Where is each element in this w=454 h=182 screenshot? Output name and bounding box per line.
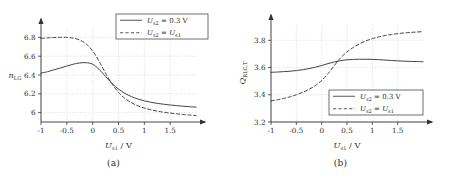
x-tick-label: 1.5 <box>392 126 404 135</box>
curve-solid <box>41 63 196 108</box>
legend: Us2 = 0.3 VUs2 = Us1 <box>329 90 423 115</box>
y-tick-label: 6.4 <box>24 71 36 80</box>
y-axis-title: QRLC,T <box>237 61 248 85</box>
plot-a: -1-0.500.511.566.26.46.66.8Us1 / VnLGUs2… <box>0 0 227 182</box>
y-tick-label: 3.6 <box>254 63 266 72</box>
x-tick-label: -0.5 <box>289 126 303 135</box>
y-tick-label: 6 <box>31 108 36 117</box>
panel-b: -1-0.500.511.53.23.43.63.8Us1 / VQRLC,TU… <box>227 0 454 182</box>
legend: Us2 = 0.3 VUs2 = Us1 <box>116 14 208 39</box>
grid <box>41 28 196 122</box>
x-tick-label: 1 <box>370 126 375 135</box>
x-tick-label: 1.5 <box>164 126 176 135</box>
caption-b: (b) <box>227 158 454 168</box>
x-tick-label: -0.5 <box>60 126 74 135</box>
x-tick-label: 1 <box>142 126 147 135</box>
y-tick-label: 3.2 <box>254 118 265 127</box>
panel-a: -1-0.500.511.566.26.46.66.8Us1 / VnLGUs2… <box>0 0 227 182</box>
figure-container: -1-0.500.511.566.26.46.66.8Us1 / VnLGUs2… <box>0 0 454 182</box>
x-tick-label: -1 <box>37 126 44 135</box>
y-tick-label: 6.2 <box>24 89 35 98</box>
y-axis-arrowhead <box>268 14 273 21</box>
plot-b: -1-0.500.511.53.23.43.63.8Us1 / VQRLC,TU… <box>227 0 454 182</box>
x-axis-arrowhead <box>427 119 434 124</box>
y-tick-label: 3.8 <box>254 36 266 45</box>
x-axis-title: Us1 / V <box>105 140 133 151</box>
x-tick-label: 0.5 <box>341 126 353 135</box>
caption-a: (a) <box>0 158 227 168</box>
y-tick-label: 3.4 <box>254 90 266 99</box>
y-tick-label: 6.6 <box>24 52 36 61</box>
y-tick-label: 6.8 <box>24 33 36 42</box>
x-axis-title: Us1 / V <box>334 140 362 151</box>
x-tick-label: 0.5 <box>113 126 125 135</box>
y-axis-title: nLG <box>9 70 22 81</box>
x-tick-label: -1 <box>267 126 274 135</box>
x-tick-label: 0 <box>90 126 95 135</box>
tick-labels: -1-0.500.511.53.23.43.63.8 <box>254 36 404 135</box>
x-tick-label: 0 <box>319 126 324 135</box>
tick-labels: -1-0.500.511.566.26.46.66.8 <box>24 33 176 135</box>
y-axis-arrowhead <box>38 18 43 25</box>
x-axis-arrowhead <box>200 119 207 124</box>
